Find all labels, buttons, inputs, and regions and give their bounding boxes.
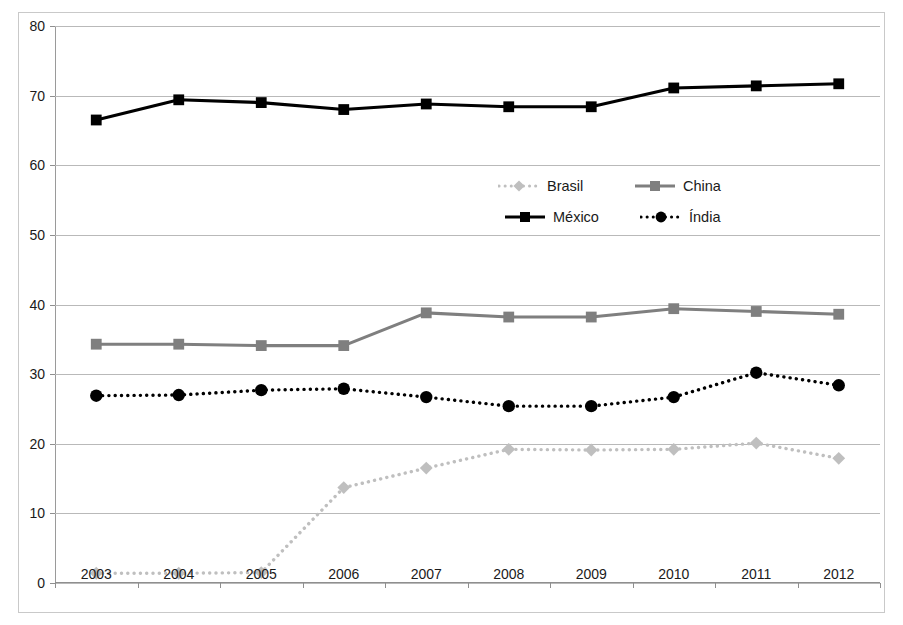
x-tick-mark-0 (55, 583, 56, 588)
data-point (503, 101, 514, 112)
data-point (751, 80, 762, 91)
data-point (503, 312, 514, 323)
data-point (585, 444, 598, 457)
x-tick-label-2010: 2010 (632, 566, 716, 582)
legend-item-china[interactable]: China (634, 173, 760, 199)
data-point (503, 400, 515, 412)
x-tick-mark-1 (138, 583, 139, 588)
x-tick-label-2007: 2007 (384, 566, 468, 582)
data-point (420, 391, 432, 403)
y-tick-label-30: 30 (5, 367, 45, 381)
data-point (833, 309, 844, 320)
data-point (421, 307, 432, 318)
data-point (667, 443, 680, 456)
data-point (833, 379, 845, 391)
series-line (96, 443, 839, 573)
data-point (750, 367, 762, 379)
x-tick-mark-4 (385, 583, 386, 588)
data-point (832, 452, 845, 465)
data-point (586, 101, 597, 112)
data-point (421, 99, 432, 110)
legend-label: Índia (689, 209, 720, 225)
chart-legend: BrasilChinaMéxicoÍndia (498, 170, 760, 232)
chart-title (0, 0, 903, 4)
legend-swatch-icon (498, 179, 540, 193)
y-tick-label-80: 80 (5, 19, 45, 33)
data-point (751, 306, 762, 317)
series-line (96, 373, 839, 406)
x-tick-label-2012: 2012 (797, 566, 881, 582)
y-tick-label-60: 60 (5, 158, 45, 172)
x-tick-mark-8 (715, 583, 716, 588)
y-tick-label-40: 40 (5, 298, 45, 312)
x-tick-label-2008: 2008 (467, 566, 551, 582)
data-point (585, 400, 597, 412)
series-china (91, 303, 844, 351)
x-tick-label-2004: 2004 (137, 566, 221, 582)
legend-label: China (683, 178, 721, 194)
line-chart: 01020304050607080 2003200420052006200720… (0, 0, 903, 625)
series-line (96, 309, 839, 346)
legend-item-india[interactable]: Índia (634, 204, 760, 230)
data-point (338, 104, 349, 115)
legend-swatch-icon (634, 179, 676, 193)
legend-swatch-icon (640, 210, 682, 224)
x-tick-label-2005: 2005 (219, 566, 303, 582)
data-point (668, 391, 680, 403)
data-point (502, 443, 515, 456)
x-tick-mark-3 (303, 583, 304, 588)
x-tick-mark-7 (633, 583, 634, 588)
data-point (420, 462, 433, 475)
x-tick-label-2003: 2003 (54, 566, 138, 582)
series-mexico (91, 78, 844, 125)
data-point (833, 78, 844, 89)
x-tick-mark-9 (798, 583, 799, 588)
data-point (173, 389, 185, 401)
y-tick-label-70: 70 (5, 89, 45, 103)
x-tick-label-2006: 2006 (302, 566, 386, 582)
y-tick-label-0: 0 (5, 576, 45, 590)
data-point (338, 340, 349, 351)
legend-item-mexico[interactable]: México (498, 204, 634, 230)
series-line (96, 84, 839, 120)
x-tick-mark-2 (220, 583, 221, 588)
x-tick-label-2009: 2009 (549, 566, 633, 582)
data-point (338, 383, 350, 395)
legend-label: México (553, 209, 599, 225)
data-point (750, 437, 763, 450)
data-point (668, 303, 679, 314)
data-point (256, 97, 267, 108)
series-plot (55, 26, 880, 583)
data-point (91, 339, 102, 350)
data-point (173, 339, 184, 350)
data-point (255, 384, 267, 396)
legend-item-brasil[interactable]: Brasil (498, 173, 634, 199)
x-tick-mark-10 (880, 583, 881, 588)
y-tick-label-20: 20 (5, 437, 45, 451)
data-point (256, 340, 267, 351)
series-india (90, 367, 845, 413)
y-tick-label-50: 50 (5, 228, 45, 242)
data-point (586, 312, 597, 323)
plot-area (55, 26, 880, 583)
x-tick-mark-5 (468, 583, 469, 588)
data-point (90, 390, 102, 402)
legend-swatch-icon (504, 210, 546, 224)
data-point (173, 94, 184, 105)
legend-label: Brasil (547, 178, 583, 194)
x-tick-label-2011: 2011 (714, 566, 798, 582)
x-tick-mark-6 (550, 583, 551, 588)
series-brasil (90, 437, 845, 580)
y-tick-label-10: 10 (5, 506, 45, 520)
data-point (91, 115, 102, 126)
data-point (668, 83, 679, 94)
